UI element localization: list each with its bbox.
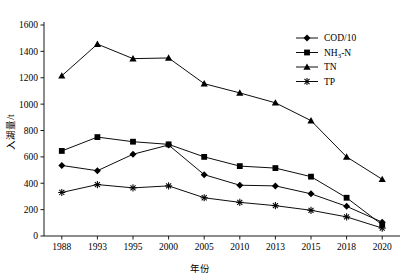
triangle-marker [307, 117, 314, 123]
series-tp [58, 181, 386, 232]
series-line [62, 137, 382, 225]
legend-label: NH3-N [324, 48, 351, 59]
triangle-marker [379, 176, 386, 182]
square-marker [166, 141, 172, 147]
square-marker [344, 195, 350, 201]
square-marker [95, 134, 101, 140]
diamond-marker [130, 151, 137, 158]
series-line [62, 185, 382, 229]
line-chart: 02004006008001000120014001600 1988199319… [0, 0, 412, 278]
y-tick-label: 800 [24, 126, 39, 136]
diamond-marker [58, 162, 65, 169]
series-cod-10 [58, 142, 385, 226]
y-tick-label: 600 [24, 152, 39, 162]
x-tick-label: 2015 [302, 242, 321, 252]
diamond-marker [308, 190, 315, 197]
square-marker [130, 139, 136, 145]
series-nh3-n [59, 134, 385, 227]
y-tick-label: 0 [33, 231, 38, 241]
legend-item-tp[interactable]: TP [296, 77, 335, 87]
triangle-marker [201, 80, 208, 86]
x-tick-label: 2005 [195, 242, 214, 252]
square-marker [273, 165, 279, 171]
diamond-marker [304, 35, 311, 42]
x-tick-label: 2000 [159, 242, 178, 252]
x-tick-label: 2018 [337, 242, 356, 252]
series-line [62, 145, 382, 222]
y-tick-label: 1200 [19, 73, 38, 83]
diamond-marker [236, 182, 243, 189]
y-tick-label: 1400 [19, 47, 38, 57]
diamond-marker [272, 182, 279, 189]
triangle-marker [94, 41, 101, 47]
y-axis-tick-group: 02004006008001000120014001600 [19, 20, 44, 241]
square-marker [237, 163, 243, 169]
legend-item-nh3-n[interactable]: NH3-N [296, 48, 351, 59]
y-tick-label: 200 [24, 205, 39, 215]
x-tick-label: 1993 [88, 242, 107, 252]
x-tick-label: 2010 [230, 242, 249, 252]
legend-label: TP [324, 77, 335, 87]
x-tick-label: 1988 [52, 242, 71, 252]
y-tick-label: 1600 [19, 20, 38, 30]
diamond-marker [94, 167, 101, 174]
square-marker [201, 154, 207, 160]
legend-label: TN [324, 62, 337, 72]
x-tick-label: 1995 [124, 242, 143, 252]
y-tick-label: 400 [24, 179, 39, 189]
x-tick-label: 2020 [373, 242, 392, 252]
square-marker [308, 174, 314, 180]
square-marker [304, 50, 310, 56]
x-axis-tick-group: 1988199319952000200520102013201520182020 [52, 236, 392, 252]
legend-item-cod-10[interactable]: COD/10 [296, 33, 356, 43]
chart-legend: COD/10NH3-NTNTP [296, 33, 356, 87]
x-axis-title: 年份 [190, 263, 210, 274]
y-tick-label: 1000 [19, 100, 38, 110]
legend-label: COD/10 [324, 33, 356, 43]
chart-canvas: 02004006008001000120014001600 1988199319… [0, 0, 412, 278]
square-marker [59, 148, 65, 154]
diamond-marker [343, 203, 350, 210]
y-axis-title: 入湖量/t [6, 114, 16, 150]
x-tick-label: 2013 [266, 242, 285, 252]
legend-item-tn[interactable]: TN [296, 62, 337, 72]
